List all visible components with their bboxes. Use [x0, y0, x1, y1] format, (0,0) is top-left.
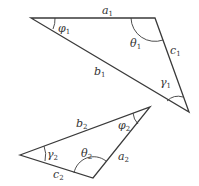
angle-gamma2-arc [44, 146, 46, 161]
angle-phi1-label: φ1 [58, 22, 70, 36]
triangle-1: a1 φ1 θ1 c1 b1 γ1 [31, 4, 189, 112]
angle-phi1-arc [53, 18, 55, 29]
side-b1-label: b1 [94, 65, 106, 79]
angle-theta2-label: θ2 [81, 147, 92, 161]
side-c2-label: c2 [53, 168, 64, 182]
side-c1-label: c1 [170, 44, 181, 58]
side-a1-label: a1 [102, 4, 113, 18]
triangles-diagram: a1 φ1 θ1 c1 b1 γ1 b2 φ2 γ2 θ2 a2 c2 [0, 0, 199, 186]
side-a2-label: a2 [118, 150, 129, 164]
triangle-2-outline [20, 107, 150, 178]
triangle-1-outline [31, 18, 189, 112]
angle-theta1-label: θ1 [130, 37, 141, 51]
angle-gamma2-label: γ2 [47, 148, 58, 162]
side-b2-label: b2 [76, 117, 88, 131]
triangle-2: b2 φ2 γ2 θ2 a2 c2 [20, 107, 150, 182]
angle-gamma1-label: γ1 [160, 76, 171, 90]
angle-phi2-label: φ2 [118, 119, 130, 133]
